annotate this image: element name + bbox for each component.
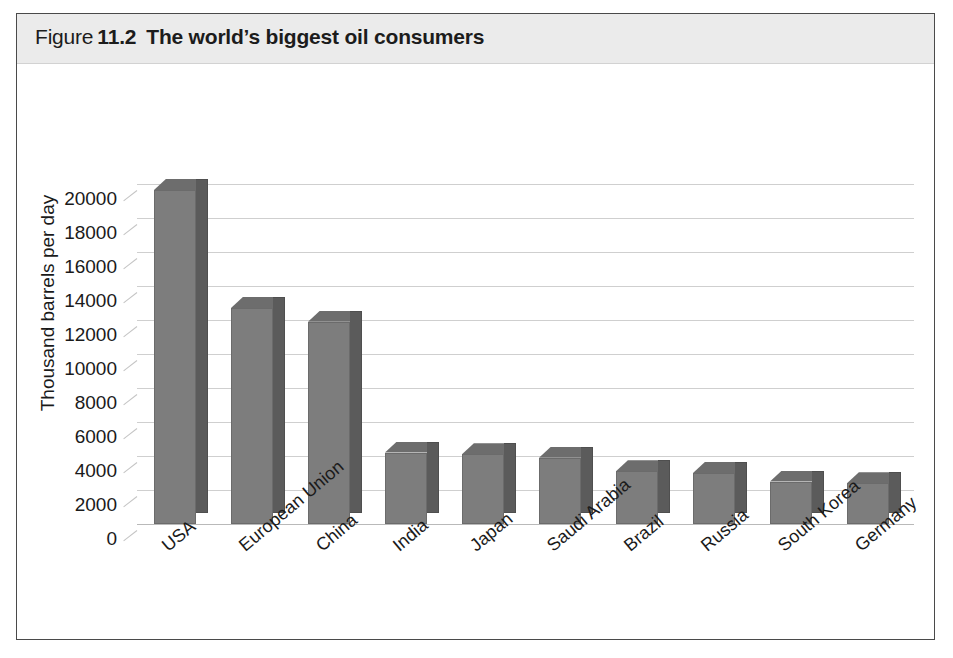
bar-side-face [504,443,516,513]
y-axis-tick-label: 10000 [31,358,117,380]
axis-depth-tick [123,496,137,507]
gridline [137,184,914,185]
axis-depth-tick [123,394,137,405]
bar-side-face [273,297,285,513]
chart-plot-area: Thousand barrels per day 200001800016000… [17,64,935,640]
y-axis-tick-label: 2000 [31,494,117,516]
bar-front-face [385,453,427,524]
figure-container: Figure11.2The world’s biggest oil consum… [16,13,935,640]
bar-side-face [658,460,670,513]
y-axis-tick-label: 20000 [31,188,117,210]
bar-front-face [154,190,196,524]
axis-depth-tick [123,326,137,337]
axis-depth-tick [123,292,137,303]
axis-depth-tick [123,190,137,201]
figure-title-text: The world’s biggest oil consumers [146,25,484,48]
axis-depth-tick [123,224,137,235]
axis-depth-tick [123,428,137,439]
bar-column [231,297,285,524]
axis-depth-tick [123,258,137,269]
y-axis-tick-label: 0 [31,528,117,550]
axis-depth-tick [123,530,137,541]
figure-title-band: Figure11.2The world’s biggest oil consum… [17,14,934,64]
figure-label-word: Figure [35,25,93,48]
page-title: Figure11.2The world’s biggest oil consum… [35,25,484,49]
gridline [137,218,914,219]
bar-side-face [427,442,439,513]
gridline [137,252,914,253]
y-axis-tick-label: 16000 [31,256,117,278]
y-axis-tick-label: 12000 [31,324,117,346]
y-axis-tick-label: 6000 [31,426,117,448]
axis-depth-tick [123,360,137,371]
y-axis-tick-label: 4000 [31,460,117,482]
y-axis-tick-label: 8000 [31,392,117,414]
figure-number: 11.2 [97,25,136,48]
bar-side-face [350,311,362,513]
bar-column [154,179,208,524]
bar-side-face [196,179,208,513]
gridline [137,286,914,287]
bar-front-face [231,308,273,524]
y-axis-tick-label: 18000 [31,222,117,244]
axis-depth-tick [123,462,137,473]
y-axis-tick-label: 14000 [31,290,117,312]
bar-column [385,442,439,524]
bar-column [462,443,516,524]
